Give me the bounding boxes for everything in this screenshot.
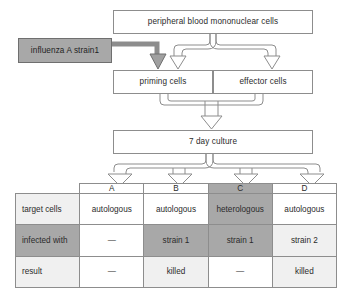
node-7-day-culture: 7 day culture: [113, 130, 313, 154]
cell-result-b: killed: [144, 256, 208, 287]
column-header-a: A: [80, 184, 144, 194]
merge-outer-tube: [160, 94, 263, 105]
node-influenza-a-strain1: influenza A strain1: [18, 38, 112, 63]
outline-down-arrow-icon-to-priming: [170, 56, 186, 69]
culture-bus-left-outer: [114, 154, 206, 172]
column-header-b: B: [144, 184, 208, 194]
pbmc-left-branch-outer: [174, 34, 210, 56]
cell-result-a: —: [80, 256, 144, 287]
merge-stem: [205, 101, 218, 116]
table-header-row: A B C D: [16, 184, 337, 194]
node-peripheral-blood-mononuclear-cells: peripheral blood mononuclear cells: [113, 10, 313, 34]
cell-target-cells-a: autologous: [80, 194, 144, 225]
row-label-result: result: [16, 256, 80, 287]
cell-result-d: killed: [272, 256, 336, 287]
cell-infected-with-c: strain 1: [208, 225, 272, 256]
culture-dropper-c: [240, 168, 252, 174]
cell-infected-with-a: —: [80, 225, 144, 256]
row-label-target-cells: target cells: [16, 194, 80, 225]
node-pbmc-label: peripheral blood mononuclear cells: [148, 17, 278, 26]
influenza-connector-line: [112, 44, 157, 55]
experiment-matrix: A B C D target cells autologous autologo…: [15, 183, 337, 288]
cell-target-cells-d: autologous: [272, 194, 336, 225]
table-row-result: result — killed — killed: [16, 256, 337, 287]
table-row-infected-with: infected with — strain 1 strain 1 strain…: [16, 225, 337, 256]
pbmc-right-branch-outer: [216, 34, 276, 56]
column-header-d: D: [272, 184, 336, 194]
cell-result-c: —: [208, 256, 272, 287]
table-row-target-cells: target cells autologous autologous heter…: [16, 194, 337, 225]
cell-infected-with-d: strain 2: [272, 225, 336, 256]
outline-down-arrow-icon-to-effector: [264, 56, 280, 69]
cell-target-cells-b: autologous: [144, 194, 208, 225]
pbmc-left-branch-inner: [182, 34, 216, 56]
culture-bus-right-inner: [206, 154, 308, 174]
outline-down-arrow-icon-to-culture: [201, 116, 222, 129]
culture-bus-right-outer: [213, 154, 320, 172]
header-corner-blank: [16, 184, 80, 194]
experiment-matrix-table: A B C D target cells autologous autologo…: [15, 183, 337, 288]
column-header-c: C: [208, 184, 272, 194]
node-priming-cells: priming cells: [113, 70, 213, 94]
cell-infected-with-b: strain 1: [144, 225, 208, 256]
node-influenza-label: influenza A strain1: [31, 46, 99, 55]
row-label-infected-with: infected with: [16, 225, 80, 256]
node-effector-cells: effector cells: [213, 70, 313, 94]
node-effector-label: effector cells: [239, 77, 286, 86]
node-priming-label: priming cells: [140, 77, 187, 86]
diagram-canvas: peripheral blood mononuclear cells influ…: [0, 0, 350, 295]
node-culture-label: 7 day culture: [189, 137, 237, 146]
merge-inner-tube: [168, 94, 255, 101]
culture-dropper-b: [173, 168, 185, 174]
pbmc-right-branch-inner: [210, 34, 268, 56]
cell-target-cells-c: heterologous: [208, 194, 272, 225]
culture-bus-left-inner: [126, 154, 213, 174]
solid-down-arrow-icon-to-priming: [150, 54, 166, 69]
